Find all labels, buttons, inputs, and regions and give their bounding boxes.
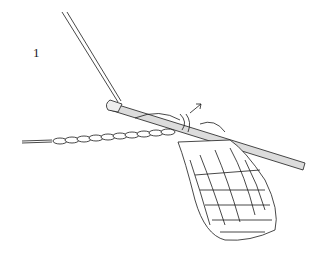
direction-arrow-icon [190,104,201,113]
crochet-drawing [0,0,325,261]
yarn-strand [62,12,121,102]
crochet-illustration: 1 [0,0,325,261]
foundation-chain [22,129,175,144]
